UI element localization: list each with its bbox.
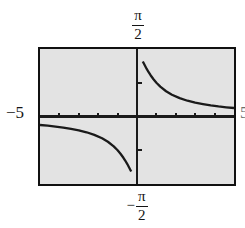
graph-figure: π 2 − π 2 −5 5 <box>0 0 245 228</box>
fraction-pi-over-2: π 2 <box>136 189 148 224</box>
fraction-numerator: π <box>132 8 144 26</box>
axis-lines <box>40 49 234 184</box>
y-axis-min-label: − π 2 <box>106 189 168 224</box>
y-axis-max-label: π 2 <box>112 8 164 43</box>
x-axis-min-label: −5 <box>6 104 24 121</box>
x-axis-max-label: 5 <box>240 104 245 121</box>
fraction-numerator: π <box>136 189 148 207</box>
fraction-pi-over-2: π 2 <box>132 8 144 43</box>
plot-surface <box>40 49 234 184</box>
branch-right <box>143 62 234 108</box>
fraction-denominator: 2 <box>136 207 148 224</box>
minus-sign: − <box>126 198 135 213</box>
branch-left <box>40 125 131 171</box>
fraction-denominator: 2 <box>132 26 144 43</box>
plot-frame <box>38 47 236 186</box>
